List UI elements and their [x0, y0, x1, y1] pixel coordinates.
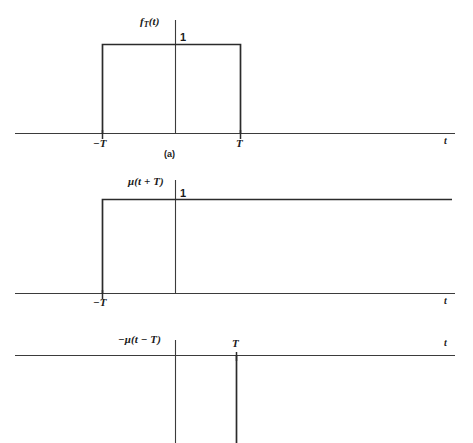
figure-caption: (a) [164, 150, 175, 159]
panel-a-graphics [15, 20, 455, 139]
figure-root: fT(t) 1 −T T t (a) μ(t + T) 1 −T t −μ(t … [0, 0, 473, 443]
panel-a-function-label: fT(t) [140, 16, 159, 29]
panel-c-x-axis-label: t [444, 338, 447, 348]
panel-c-function-label: −μ(t − T) [118, 334, 161, 345]
panel-b-waveform [103, 200, 453, 294]
panel-a-xtick-positive-T: T [236, 138, 243, 149]
panel-a-function-tail: (t) [149, 15, 160, 27]
panel-b-amplitude-label: 1 [180, 188, 186, 199]
panel-c-graphics [15, 340, 455, 443]
panel-b-x-axis-label: t [444, 296, 447, 306]
panel-b-xtick-negative-T: −T [93, 297, 106, 308]
panel-a-amplitude-label: 1 [180, 32, 186, 43]
panel-a-waveform [103, 45, 241, 134]
figure-svg [0, 0, 473, 443]
panel-a-x-axis-label: t [444, 136, 447, 146]
panel-b-function-label: μ(t + T) [128, 176, 164, 187]
panel-a-xtick-negative-T: −T [93, 138, 106, 149]
panel-c-xtick-positive-T: T [232, 338, 239, 349]
panel-b-graphics [15, 180, 455, 299]
